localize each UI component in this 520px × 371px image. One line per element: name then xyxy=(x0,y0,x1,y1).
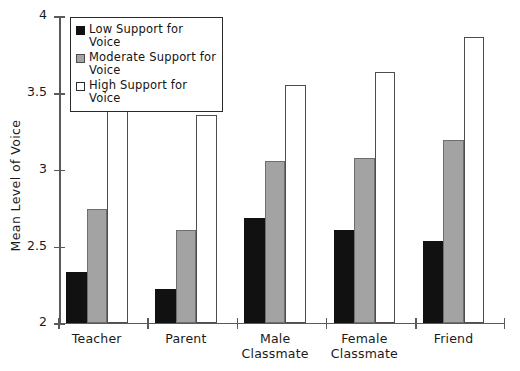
legend-item-low: Low Support for Voice xyxy=(76,23,217,49)
x-tick xyxy=(504,318,506,329)
bar-high-friend xyxy=(464,37,485,323)
x-tick xyxy=(237,318,239,329)
legend-swatch-high-icon xyxy=(76,82,85,91)
y-tick-label: 2.5 xyxy=(27,238,47,254)
y-axis-title: Mean Level of Voice xyxy=(0,0,30,371)
legend-label: Moderate Support for Voice xyxy=(89,51,217,77)
x-category-label: Friend xyxy=(399,331,509,346)
legend-label: High Support for Voice xyxy=(89,79,217,105)
legend-item-high: High Support for Voice xyxy=(76,79,217,105)
bar-moderate-parent xyxy=(176,230,197,322)
y-tick: 3.5 xyxy=(54,93,65,95)
y-tick-label: 3.5 xyxy=(27,84,47,100)
bar-low-female-classmate xyxy=(334,230,355,322)
bar-high-male-classmate xyxy=(285,85,306,323)
x-tick xyxy=(326,318,328,329)
bar-moderate-male-classmate xyxy=(265,161,286,322)
y-tick-label: 3 xyxy=(39,161,47,177)
legend-swatch-moderate-icon xyxy=(76,54,85,63)
y-tick-label: 2 xyxy=(39,314,47,330)
y-tick: 4 xyxy=(54,16,65,18)
bar-low-friend xyxy=(423,241,444,322)
bar-moderate-female-classmate xyxy=(354,158,375,322)
x-tick xyxy=(415,318,417,329)
x-tick xyxy=(58,318,60,329)
bar-chart-figure: Mean Level of Voice 22.533.54 TeacherPar… xyxy=(0,0,520,371)
chart-legend: Low Support for VoiceModerate Support fo… xyxy=(70,17,223,112)
bar-low-teacher xyxy=(66,272,87,323)
y-tick-label: 4 xyxy=(39,7,47,23)
bar-moderate-teacher xyxy=(87,209,108,323)
x-category-label-line: Friend xyxy=(399,331,509,346)
bar-low-male-classmate xyxy=(244,218,265,322)
x-category-label-line: Classmate xyxy=(309,346,419,361)
legend-swatch-low-icon xyxy=(76,26,85,35)
bar-high-female-classmate xyxy=(375,72,396,322)
y-tick: 3 xyxy=(54,170,65,172)
bar-high-teacher xyxy=(107,111,128,323)
y-tick: 2.5 xyxy=(54,247,65,249)
legend-item-moderate: Moderate Support for Voice xyxy=(76,51,217,77)
bar-low-parent xyxy=(155,289,176,323)
bar-high-parent xyxy=(196,115,217,322)
x-axis-line xyxy=(59,323,505,325)
legend-label: Low Support for Voice xyxy=(89,23,217,49)
x-tick xyxy=(147,318,149,329)
bar-moderate-friend xyxy=(443,140,464,323)
